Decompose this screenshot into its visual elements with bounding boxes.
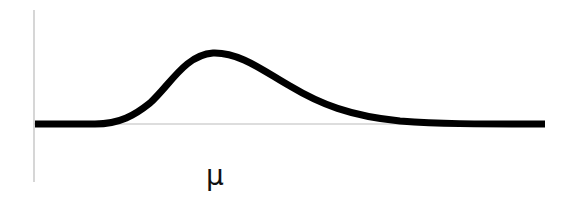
skewed-distribution-plot bbox=[0, 0, 573, 202]
chart-canvas: μ bbox=[0, 0, 573, 202]
distribution-curve bbox=[35, 53, 545, 124]
mean-label: μ bbox=[200, 160, 230, 192]
